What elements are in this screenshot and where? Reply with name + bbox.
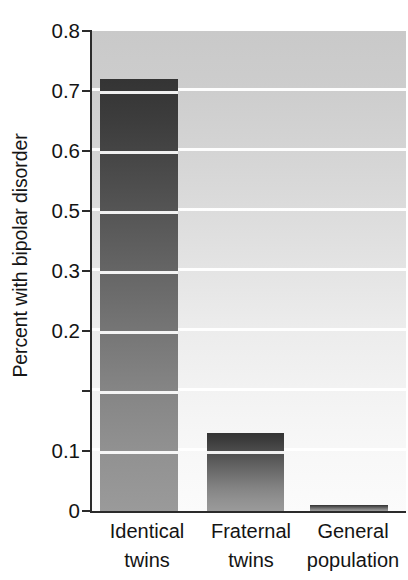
x-axis-line xyxy=(90,511,406,513)
x-tick-line1: Fraternal xyxy=(211,520,291,542)
y-axis-line xyxy=(90,30,92,512)
x-tick-line1: General xyxy=(317,520,388,542)
x-tick-label-identical-twins: Identical twins xyxy=(92,517,202,575)
bar-identical-twins[interactable] xyxy=(100,79,178,511)
y-tick-label: 0.7 xyxy=(52,81,81,102)
plot-area xyxy=(92,31,406,511)
bar-fill xyxy=(207,433,284,511)
x-tick-line2: population xyxy=(297,546,408,575)
bar-chart-figure: Percent with bipolar disorder 0.8 0.7 0.… xyxy=(0,0,408,580)
y-tick-label: 0.8 xyxy=(52,21,81,42)
gridline xyxy=(100,331,178,334)
y-tick-label: 0.2 xyxy=(52,321,81,342)
x-tick-label-fraternal-twins: Fraternal twins xyxy=(197,517,305,575)
x-tick-line2: twins xyxy=(197,546,305,575)
x-axis-ticks: Identical twins Fraternal twins General … xyxy=(92,517,406,580)
gridline xyxy=(207,451,284,454)
y-axis-title: Percent with bipolar disorder xyxy=(0,0,40,511)
gridline xyxy=(100,451,178,454)
gridline xyxy=(100,211,178,214)
y-axis-ticks: 0.8 0.7 0.6 0.5 0.3 0.2 0.1 0 xyxy=(40,0,92,580)
y-tick-label: 0.5 xyxy=(52,201,81,222)
y-tick-label: 0 xyxy=(69,501,80,522)
x-tick-label-general-population: General population xyxy=(297,517,408,575)
bar-fill xyxy=(100,79,178,511)
y-axis-title-text: Percent with bipolar disorder xyxy=(9,133,32,377)
x-tick-line1: Identical xyxy=(110,520,185,542)
x-tick-line2: twins xyxy=(92,546,202,575)
bar-fraternal-twins[interactable] xyxy=(207,433,284,511)
y-tick-label: 0.1 xyxy=(52,441,81,462)
gridline xyxy=(100,151,178,154)
y-tick-label: 0.3 xyxy=(52,261,81,282)
gridline xyxy=(100,91,178,94)
gridline xyxy=(100,271,178,274)
gridline xyxy=(100,391,178,394)
y-tick-label: 0.6 xyxy=(52,141,81,162)
